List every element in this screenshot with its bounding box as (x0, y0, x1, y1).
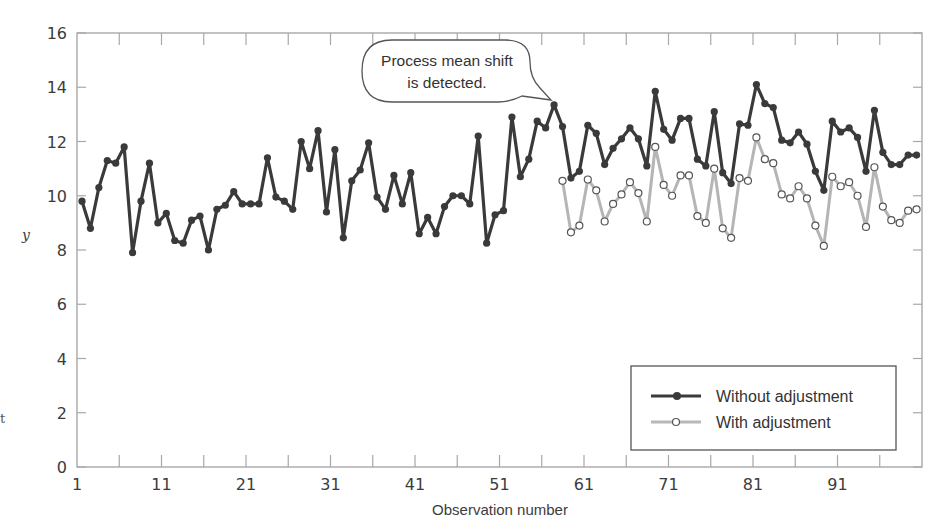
data-point (635, 135, 642, 142)
data-point (905, 151, 912, 158)
open-circle-marker-icon (673, 419, 680, 426)
data-point (719, 169, 726, 176)
data-point (778, 191, 785, 198)
data-point (340, 234, 347, 241)
data-point (694, 213, 701, 220)
data-point (87, 225, 94, 232)
data-point (635, 190, 642, 197)
x-tick-label: 81 (743, 475, 763, 494)
data-point (879, 203, 886, 210)
data-point (829, 173, 836, 180)
data-point (728, 234, 735, 241)
data-point (626, 124, 633, 131)
data-point (795, 183, 802, 190)
data-point (272, 194, 279, 201)
data-point (213, 206, 220, 213)
legend-label: With adjustment (716, 414, 831, 431)
x-tick-label: 71 (658, 475, 678, 494)
data-point (787, 195, 794, 202)
y-tick-label: 14 (47, 78, 67, 97)
y-tick-label: 2 (57, 404, 67, 423)
data-point (888, 161, 895, 168)
y-tick-label: 4 (57, 350, 67, 369)
data-point (744, 122, 751, 129)
data-point (517, 173, 524, 180)
x-axis-title: Observation number (432, 501, 568, 518)
data-point (129, 249, 136, 256)
y-tick-label: 10 (47, 187, 67, 206)
data-point (711, 165, 718, 172)
data-point (609, 145, 616, 152)
data-point (576, 168, 583, 175)
x-tick-label: 31 (320, 475, 340, 494)
data-point (432, 230, 439, 237)
data-point (618, 135, 625, 142)
data-point (669, 137, 676, 144)
filled-circle-marker-icon (673, 392, 681, 400)
data-point (728, 180, 735, 187)
series-without-adjustment (78, 81, 920, 256)
data-point (441, 203, 448, 210)
y-tick-label: 0 (57, 458, 67, 477)
data-point (711, 108, 718, 115)
data-point (525, 156, 532, 163)
x-tick-label: 91 (827, 475, 847, 494)
data-point (112, 160, 119, 167)
legend-box (631, 366, 896, 450)
data-point (180, 240, 187, 247)
data-point (399, 200, 406, 207)
data-point (685, 172, 692, 179)
data-point (685, 115, 692, 122)
data-point (407, 169, 414, 176)
data-point (719, 225, 726, 232)
data-point (744, 177, 751, 184)
data-point (196, 212, 203, 219)
data-point (770, 104, 777, 111)
x-tick-label: 61 (574, 475, 594, 494)
data-point (458, 192, 465, 199)
data-point (643, 218, 650, 225)
data-point (888, 217, 895, 224)
data-point (871, 107, 878, 114)
data-point (736, 175, 743, 182)
data-point (803, 141, 810, 148)
data-point (837, 183, 844, 190)
data-point (660, 126, 667, 133)
x-tick-label: 51 (489, 475, 509, 494)
data-point (475, 132, 482, 139)
data-point (854, 192, 861, 199)
data-point (812, 168, 819, 175)
data-point (281, 198, 288, 205)
data-point (365, 139, 372, 146)
data-point (534, 118, 541, 125)
data-point (255, 200, 262, 207)
data-point (559, 177, 566, 184)
data-point (660, 181, 667, 188)
data-point (382, 206, 389, 213)
data-point (559, 123, 566, 130)
x-tick-label: 41 (405, 475, 425, 494)
data-point (508, 113, 515, 120)
data-point (694, 156, 701, 163)
data-point (753, 134, 760, 141)
data-point (331, 146, 338, 153)
y-tick-label: 6 (57, 295, 67, 314)
data-point (146, 160, 153, 167)
data-point (323, 208, 330, 215)
data-point (770, 160, 777, 167)
data-point (188, 217, 195, 224)
legend: Without adjustment With adjustment (631, 366, 896, 450)
x-tick-label: 1 (72, 475, 82, 494)
data-point (846, 124, 853, 131)
series-layer (78, 81, 920, 256)
data-point (862, 168, 869, 175)
series-line (82, 85, 917, 253)
y-tick-label: 8 (57, 241, 67, 260)
annotation-callout: Process mean shift is detected. (362, 40, 551, 102)
data-point (205, 246, 212, 253)
data-point (803, 195, 810, 202)
data-point (298, 138, 305, 145)
data-point (483, 240, 490, 247)
data-point (820, 187, 827, 194)
data-point (314, 127, 321, 134)
